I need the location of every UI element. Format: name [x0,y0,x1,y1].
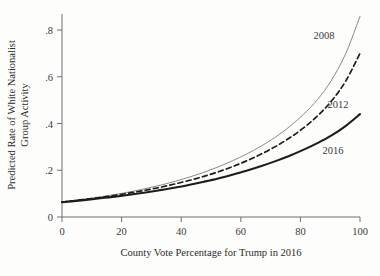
y-axis-title-line1: Predicted Rate of White Nationalist [6,40,17,190]
series-label-2016: 2016 [323,145,344,156]
x-tick-label-5: 100 [352,226,368,237]
series-label-2008: 2008 [314,30,335,41]
line-chart: 0 .2 .4 .6 .8 0 20 40 60 80 100 County V… [0,0,380,276]
x-tick-label-3: 60 [236,226,247,237]
x-axis-title: County Vote Percentage for Trump in 2016 [120,247,301,258]
chart-figure: 0 .2 .4 .6 .8 0 20 40 60 80 100 County V… [0,0,380,276]
chart-background [0,0,380,276]
y-tick-label-0: 0 [48,212,53,223]
y-tick-label-3: .6 [45,72,53,83]
y-tick-label-1: .2 [45,165,53,176]
y-tick-label-2: .4 [45,119,54,130]
x-tick-label-2: 40 [176,226,187,237]
series-label-2012: 2012 [328,99,349,110]
x-tick-label-0: 0 [59,226,64,237]
x-tick-label-4: 80 [295,226,306,237]
x-tick-label-1: 20 [116,226,127,237]
y-tick-label-4: .8 [45,25,53,36]
y-axis-title-line2: Group Activity [19,83,30,147]
